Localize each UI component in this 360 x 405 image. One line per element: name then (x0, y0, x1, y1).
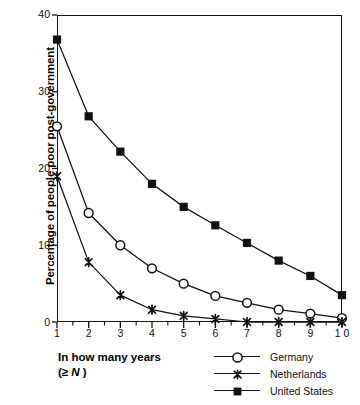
plot-area (57, 15, 342, 322)
chart-legend: Germany Netherlands United States (212, 348, 360, 399)
x-tick-label-10: 1 0 (329, 327, 355, 339)
legend-label-united-states: United States (262, 385, 333, 397)
x-tick-label-7: 7 (234, 327, 260, 339)
legend-item-netherlands[interactable]: Netherlands (212, 365, 360, 382)
x-axis-title: In how many years (≥ N ) (58, 350, 161, 380)
legend-item-united-states[interactable]: United States (212, 382, 360, 399)
x-axis-title-line2: (≥ N ) (58, 365, 161, 380)
y-tick-label-30: 30 (20, 85, 50, 97)
x-axis-title-suffix: ) (80, 366, 87, 378)
y-tick-label-10: 10 (20, 239, 50, 251)
x-axis-title-prefix: (≥ (58, 366, 71, 378)
x-axis-title-line1: In how many years (58, 351, 161, 363)
x-tick-label-2: 2 (76, 327, 102, 339)
x-axis-title-variable: N (71, 366, 79, 378)
legend-label-netherlands: Netherlands (262, 368, 327, 380)
x-tick-label-9: 9 (297, 327, 323, 339)
y-tick-label-20: 20 (20, 162, 50, 174)
x-tick-label-8: 8 (266, 327, 292, 339)
chart-figure: Percentage of people poor post-governmen… (0, 0, 360, 405)
legend-item-germany[interactable]: Germany (212, 348, 360, 365)
legend-key-open-circle-icon (212, 349, 262, 365)
x-tick-label-1: 1 (44, 327, 70, 339)
legend-label-germany: Germany (262, 351, 313, 363)
legend-key-cross-x-icon (212, 366, 262, 382)
x-tick-label-5: 5 (171, 327, 197, 339)
x-tick-label-4: 4 (139, 327, 165, 339)
x-tick-label-6: 6 (202, 327, 228, 339)
x-tick-label-3: 3 (107, 327, 133, 339)
legend-key-filled-square-icon (212, 383, 262, 399)
y-tick-label-40: 40 (20, 8, 50, 20)
